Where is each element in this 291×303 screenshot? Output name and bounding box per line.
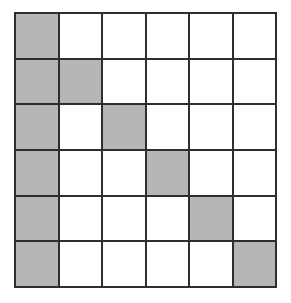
grid-cell-empty (102, 196, 146, 242)
grid-cell-empty (233, 150, 277, 196)
grid-row (15, 196, 276, 242)
grid-cell-empty (189, 13, 233, 59)
grid-cell-empty (146, 104, 190, 150)
grid-cell-empty (59, 104, 103, 150)
grid-cell-empty (102, 59, 146, 105)
grid-cell-shaded (15, 196, 59, 242)
grid-table (14, 12, 277, 288)
grid-cell-empty (189, 104, 233, 150)
grid-cell-shaded (189, 196, 233, 242)
grid-cell-shaded (15, 104, 59, 150)
grid-row (15, 241, 276, 287)
grid-body (15, 13, 276, 287)
grid-cell-empty (59, 13, 103, 59)
grid-cell-empty (189, 59, 233, 105)
grid-cell-empty (233, 104, 277, 150)
grid-cell-empty (233, 13, 277, 59)
grid-cell-empty (233, 59, 277, 105)
grid-row (15, 150, 276, 196)
grid-cell-empty (102, 241, 146, 287)
grid-cell-empty (146, 241, 190, 287)
grid-row (15, 13, 276, 59)
grid-cell-shaded (233, 241, 277, 287)
shaded-grid-figure (14, 12, 277, 288)
grid-cell-empty (233, 196, 277, 242)
grid-cell-shaded (15, 59, 59, 105)
grid-cell-shaded (59, 59, 103, 105)
grid-cell-empty (146, 196, 190, 242)
grid-cell-shaded (146, 150, 190, 196)
grid-cell-shaded (15, 241, 59, 287)
grid-cell-empty (189, 241, 233, 287)
grid-cell-empty (59, 196, 103, 242)
grid-cell-empty (189, 150, 233, 196)
grid-cell-empty (102, 150, 146, 196)
grid-cell-empty (59, 241, 103, 287)
grid-row (15, 104, 276, 150)
grid-cell-empty (146, 13, 190, 59)
grid-row (15, 59, 276, 105)
grid-cell-shaded (102, 104, 146, 150)
grid-cell-shaded (15, 13, 59, 59)
grid-cell-empty (59, 150, 103, 196)
grid-cell-empty (146, 59, 190, 105)
grid-cell-shaded (15, 150, 59, 196)
grid-cell-empty (102, 13, 146, 59)
